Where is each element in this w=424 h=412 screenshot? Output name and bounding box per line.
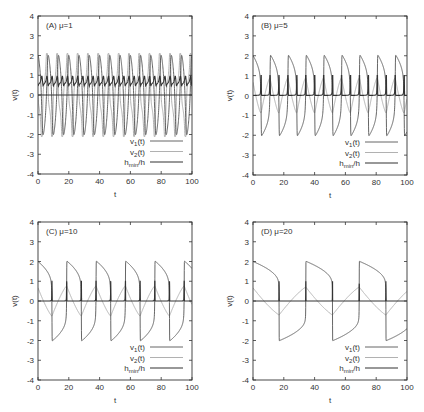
x-axis-label: t [114,190,117,199]
y-tick-label: 0 [30,297,35,306]
x-tick-label: 80 [372,383,381,392]
y-tick-label: -2 [242,337,250,346]
x-axis-label: t [329,191,332,200]
legend: v1(t)v2(t)hmin/h [124,137,183,168]
y-tick-label: 0 [30,91,35,100]
x-tick-label: 100 [185,383,199,392]
legend-label: v1(t) [345,138,360,148]
y-tick-label: -4 [242,376,250,385]
y-tick-label: -4 [27,376,35,385]
legend-label: hmin/h [124,158,145,168]
y-tick-label: 1 [30,277,35,286]
y-axis-label: v(t) [225,89,234,101]
x-tick-label: 60 [341,178,350,187]
x-axis-label: t [114,396,117,405]
panel-title: (B) μ=5 [261,21,288,30]
legend-label: hmin/h [339,364,360,374]
legend-label: v2(t) [345,149,360,159]
x-tick-label: 80 [157,177,166,186]
y-tick-label: -1 [27,317,35,326]
y-tick-label: 4 [30,12,35,21]
x-tick-label: 40 [310,383,319,392]
y-tick-label: -4 [27,170,35,179]
x-tick-label: 100 [185,177,199,186]
x-tick-label: 60 [341,383,350,392]
legend-label: v1(t) [345,343,360,353]
y-tick-label: 1 [245,72,250,81]
panel-title: (A) μ=1 [46,21,73,30]
y-tick-label: -2 [242,131,250,140]
panel-title: (D) μ=20 [261,227,293,236]
x-tick-label: 0 [36,383,41,392]
legend-label: v2(t) [130,354,145,364]
x-axis-label: t [329,396,332,405]
x-tick-label: 20 [64,177,73,186]
y-tick-label: -4 [242,171,250,180]
x-tick-label: 100 [400,178,414,187]
legend-label: v1(t) [130,137,145,147]
y-axis-label: v(t) [225,295,234,307]
y-tick-label: 3 [245,238,250,247]
panel-d: 020406080100-4-3-2-101234tv(t)(D) μ=20v1… [225,218,414,405]
y-axis-label: v(t) [10,295,19,307]
legend: v1(t)v2(t)hmin/h [339,138,398,169]
legend: v1(t)v2(t)hmin/h [124,343,183,374]
x-tick-label: 80 [157,383,166,392]
plot-area [38,54,192,137]
panel-c: 020406080100-4-3-2-101234tv(t)(C) μ=10v1… [10,218,199,405]
legend-label: v1(t) [130,343,145,353]
x-tick-label: 80 [372,178,381,187]
y-tick-label: -3 [242,151,250,160]
legend-label: v2(t) [130,148,145,158]
panel-b: 020406080100-4-3-2-101234tv(t)(B) μ=5v1(… [225,12,414,200]
legend-label: hmin/h [339,159,360,169]
x-tick-label: 0 [36,177,41,186]
y-tick-label: 1 [245,277,250,286]
panel-title: (C) μ=10 [46,227,78,236]
y-tick-label: 2 [30,52,35,61]
y-axis-label: v(t) [10,89,19,101]
x-tick-label: 20 [279,178,288,187]
plot-area [253,55,407,135]
plot-area [253,261,407,340]
y-tick-label: -3 [27,356,35,365]
x-tick-label: 40 [95,383,104,392]
y-tick-label: -3 [27,150,35,159]
y-tick-label: -1 [27,111,35,120]
legend-label: v2(t) [345,354,360,364]
figure: 020406080100-4-3-2-101234tv(t)(A) μ=1v1(… [0,0,424,412]
x-tick-label: 40 [95,177,104,186]
legend: v1(t)v2(t)hmin/h [339,343,398,374]
y-tick-label: 3 [30,32,35,41]
y-tick-label: 0 [245,297,250,306]
y-tick-label: 4 [245,218,250,227]
y-tick-label: -2 [27,131,35,140]
y-tick-label: 2 [30,258,35,267]
series-hmin-ratio-line [253,281,407,301]
y-tick-label: 3 [245,32,250,41]
plot-area [38,261,192,341]
y-tick-label: -1 [242,317,250,326]
y-tick-label: 2 [245,258,250,267]
x-tick-label: 0 [251,383,256,392]
x-tick-label: 60 [126,177,135,186]
y-tick-label: -3 [242,356,250,365]
y-tick-label: 1 [30,71,35,80]
y-tick-label: 4 [245,12,250,21]
x-tick-label: 100 [400,383,414,392]
y-tick-label: 3 [30,238,35,247]
x-tick-label: 0 [251,178,256,187]
series-hmin-ratio-line [253,76,407,96]
legend-label: hmin/h [124,364,145,374]
x-tick-label: 20 [64,383,73,392]
x-tick-label: 40 [310,178,319,187]
y-tick-label: -2 [27,337,35,346]
y-tick-label: 4 [30,218,35,227]
x-tick-label: 20 [279,383,288,392]
y-tick-label: 2 [245,52,250,61]
panel-a: 020406080100-4-3-2-101234tv(t)(A) μ=1v1(… [10,12,199,199]
x-tick-label: 60 [126,383,135,392]
y-tick-label: -1 [242,111,250,120]
y-tick-label: 0 [245,92,250,101]
